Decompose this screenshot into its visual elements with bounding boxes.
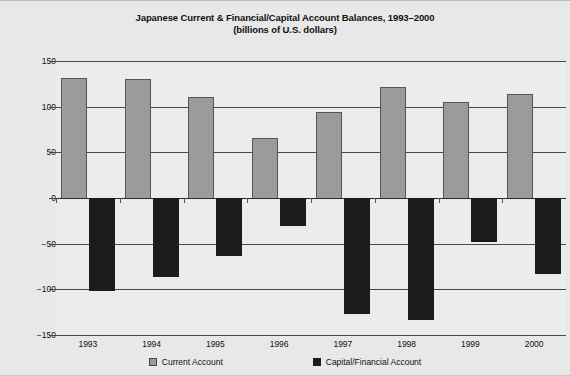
chart-title: Japanese Current & Financial/Capital Acc…: [0, 12, 570, 24]
x-tick-label-1998: 1998: [375, 339, 439, 349]
category-tick-1996: [247, 198, 248, 203]
bar-capital-financial-account-1998: [408, 198, 434, 320]
category-tick-1998: [375, 198, 376, 203]
legend-label-current-account: Current Account: [162, 357, 223, 367]
legend-label-capital-financial-account: Capital/Financial Account: [326, 357, 421, 367]
category-tick-1994: [120, 198, 121, 203]
bar-current-account-1994: [125, 79, 151, 198]
bar-capital-financial-account-1994: [153, 198, 179, 277]
x-tick-label-1993: 1993: [56, 339, 120, 349]
y-axis: 150100500−50−100−150: [0, 1, 56, 376]
x-tick-label-1999: 1999: [439, 339, 503, 349]
y-tick-mark-100: [49, 107, 56, 108]
legend-swatch-icon-current-account: [149, 358, 157, 366]
category-tick-1999: [439, 198, 440, 203]
chart-legend: Current Account Capital/Financial Accoun…: [0, 357, 570, 367]
y-tick-mark--150: [49, 335, 56, 336]
plot-area: [56, 61, 566, 335]
chart-figure: Japanese Current & Financial/Capital Acc…: [0, 0, 570, 376]
chart-title-block: Japanese Current & Financial/Capital Acc…: [0, 12, 570, 36]
bar-current-account-1998: [380, 87, 406, 198]
y-tick-mark-150: [49, 61, 56, 62]
bar-capital-financial-account-2000: [535, 198, 561, 274]
category-tick-2000: [502, 198, 503, 203]
gridline--150: [56, 335, 566, 336]
category-tick-1993: [56, 198, 57, 203]
x-tick-label-1994: 1994: [120, 339, 184, 349]
gridline--50: [56, 244, 566, 245]
bar-capital-financial-account-1997: [344, 198, 370, 314]
category-tick-1997: [311, 198, 312, 203]
x-axis-labels: 19931994199519961997199819992000: [56, 339, 566, 353]
legend-swatch-icon-capital-financial-account: [313, 358, 321, 366]
x-tick-label-1997: 1997: [311, 339, 375, 349]
bar-current-account-1995: [188, 97, 214, 198]
gridline--100: [56, 289, 566, 290]
bar-capital-financial-account-1995: [216, 198, 242, 256]
bar-current-account-2000: [507, 94, 533, 198]
x-tick-label-2000: 2000: [502, 339, 566, 349]
x-tick-label-1996: 1996: [247, 339, 311, 349]
y-tick-mark-50: [49, 152, 56, 153]
bar-capital-financial-account-1999: [471, 198, 497, 242]
bar-current-account-1993: [61, 78, 87, 198]
chart-subtitle: (billions of U.S. dollars): [0, 24, 570, 36]
y-tick-mark--50: [49, 244, 56, 245]
legend-item-current-account: Current Account: [149, 357, 223, 367]
bar-current-account-1997: [316, 112, 342, 198]
bar-capital-financial-account-1996: [280, 198, 306, 226]
bar-capital-financial-account-1993: [89, 198, 115, 291]
y-tick-mark--100: [49, 289, 56, 290]
category-tick-1995: [184, 198, 185, 203]
x-tick-label-1995: 1995: [184, 339, 248, 349]
legend-item-capital-financial-account: Capital/Financial Account: [313, 357, 421, 367]
gridline-150: [56, 61, 566, 62]
bar-current-account-1996: [252, 138, 278, 198]
y-tick-mark-0: [49, 198, 56, 199]
bar-current-account-1999: [443, 102, 469, 198]
